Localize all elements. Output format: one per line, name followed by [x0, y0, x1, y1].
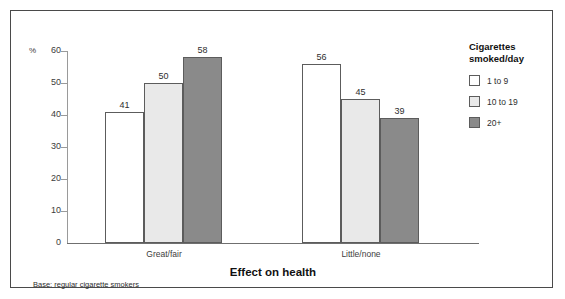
legend-label-10-to-19: 10 to 19: [487, 97, 518, 107]
legend-item-20-plus: 20+: [469, 117, 559, 128]
y-label-60-wrap: 60: [25, 46, 61, 55]
y-axis-label-40: 40: [35, 110, 61, 119]
y-label-0-wrap: 0: [25, 238, 61, 247]
x-axis-category-little-none: Little/none: [302, 249, 420, 259]
figure-frame: % 60 50 40 30 20 10 0: [10, 10, 553, 288]
bar-value-little-none-20-plus: 39: [380, 106, 419, 116]
y-axis-label-60: 60: [35, 46, 61, 55]
bar-little-none-10-to-19: [341, 99, 380, 243]
legend-title: Cigarettessmoked/day: [469, 41, 541, 64]
legend-title-line-1: Cigarettes: [469, 41, 515, 52]
bar-value-great-fair-1-to-9: 41: [105, 100, 144, 110]
y-axis-label-10: 10: [35, 206, 61, 215]
bar-value-little-none-1-to-9: 56: [302, 52, 341, 62]
y-axis-label-0: 0: [35, 238, 61, 247]
y-axis-label-20: 20: [35, 174, 61, 183]
y-axis-label-30: 30: [35, 142, 61, 151]
bar-little-none-1-to-9: [302, 64, 341, 243]
chart-footnote: Base: regular cigarette smokers: [33, 280, 139, 289]
legend-swatch-1-to-9: [469, 75, 480, 86]
y-label-30-wrap: 30: [25, 142, 61, 151]
chart-figure: % 60 50 40 30 20 10 0: [0, 0, 565, 299]
legend-swatch-20-plus: [469, 117, 480, 128]
x-axis-title: Effect on health: [67, 266, 479, 279]
legend-swatch-10-to-19: [469, 96, 480, 107]
legend-title-line-2: smoked/day: [469, 53, 524, 64]
legend-label-20-plus: 20+: [487, 118, 501, 128]
y-label-40-wrap: 40: [25, 110, 61, 119]
legend-item-1-to-9: 1 to 9: [469, 75, 559, 86]
bar-great-fair-10-to-19: [144, 83, 183, 243]
bar-value-little-none-10-to-19: 45: [341, 87, 380, 97]
y-label-10-wrap: 10: [25, 206, 61, 215]
legend-item-10-to-19: 10 to 19: [469, 96, 559, 107]
y-label-50-wrap: 50: [25, 78, 61, 87]
legend-label-1-to-9: 1 to 9: [487, 76, 508, 86]
y-axis-label-50: 50: [35, 78, 61, 87]
bar-value-great-fair-10-to-19: 50: [144, 71, 183, 81]
plot-area: 41 50 58 56 45 39: [67, 51, 479, 243]
x-axis-category-great-fair: Great/fair: [105, 249, 223, 259]
bar-little-none-20-plus: [380, 118, 419, 243]
x-axis-line: [67, 243, 479, 244]
y-label-20-wrap: 20: [25, 174, 61, 183]
chart-legend: Cigarettessmoked/day 1 to 9 10 to 19 20+: [469, 41, 559, 138]
bar-great-fair-20-plus: [183, 57, 222, 243]
bar-great-fair-1-to-9: [105, 112, 144, 243]
bar-value-great-fair-20-plus: 58: [183, 45, 222, 55]
